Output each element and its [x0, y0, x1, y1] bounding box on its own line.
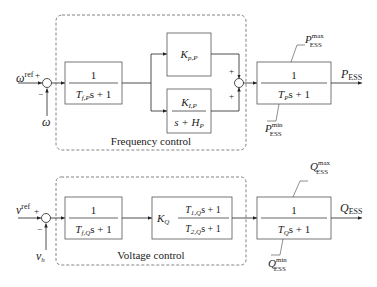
- plus-sign-bottom: +: [229, 91, 234, 101]
- proportional-gain-block: Kp,P: [167, 33, 211, 76]
- lead-lag-block: KQ T1,Qs + 1 T2,Qs + 1: [152, 197, 232, 239]
- voltage-control-section: vref + − vh 1 Tf,Qs + 1 KQ T1,Qs + 1 T2,…: [16, 159, 362, 273]
- frequency-control-section: ωref + − ω 1 Tf,Ps + 1 Kp,P KI,P s: [16, 15, 362, 150]
- p-ess-max-label: PmaxESS: [304, 32, 324, 49]
- control-block-diagram: ωref + − ω 1 Tf,Ps + 1 Kp,P KI,P s: [0, 0, 377, 287]
- svg-text:TQs + 1: TQs + 1: [278, 223, 311, 237]
- p-ess-min-label: PminESS: [264, 121, 283, 138]
- svg-text:1: 1: [91, 69, 97, 81]
- ess-active-power-block: 1 TPs + 1: [257, 62, 331, 104]
- frequency-filter-block: 1 Tf,Ps + 1: [65, 62, 122, 104]
- q-ess-max-label: QmaxESS: [310, 159, 331, 176]
- plus-sign-top: +: [229, 66, 234, 76]
- minus-sign: −: [38, 89, 43, 99]
- ess-reactive-power-block: 1 TQs + 1: [257, 197, 331, 239]
- svg-text:TPs + 1: TPs + 1: [278, 88, 310, 102]
- summing-junction-frequency: [43, 79, 52, 88]
- plus-sign: +: [35, 70, 40, 80]
- minus-sign: −: [37, 224, 42, 234]
- q-ess-output-label: QESS: [340, 201, 362, 216]
- v-h-feedback-label: vh: [36, 249, 45, 264]
- frequency-control-label: Frequency control: [111, 135, 191, 147]
- v-ref-label: vref: [16, 202, 31, 217]
- summing-junction-voltage: [42, 214, 51, 223]
- q-ess-min-label: QminESS: [268, 256, 287, 273]
- svg-text:1: 1: [291, 204, 297, 216]
- p-ess-output-label: PESS: [340, 67, 362, 82]
- svg-text:Tf,Ps + 1: Tf,Ps + 1: [76, 88, 112, 102]
- voltage-filter-block: 1 Tf,Qs + 1: [65, 197, 122, 239]
- svg-text:1: 1: [291, 69, 297, 81]
- svg-text:1: 1: [91, 204, 97, 216]
- voltage-control-label: Voltage control: [117, 249, 184, 261]
- plus-sign: +: [34, 206, 39, 216]
- summing-junction-pi: [235, 79, 244, 88]
- svg-text:Tf,Qs + 1: Tf,Qs + 1: [75, 223, 111, 237]
- integral-gain-block: KI,P s + HP: [167, 89, 211, 133]
- omega-feedback-label: ω: [42, 115, 50, 129]
